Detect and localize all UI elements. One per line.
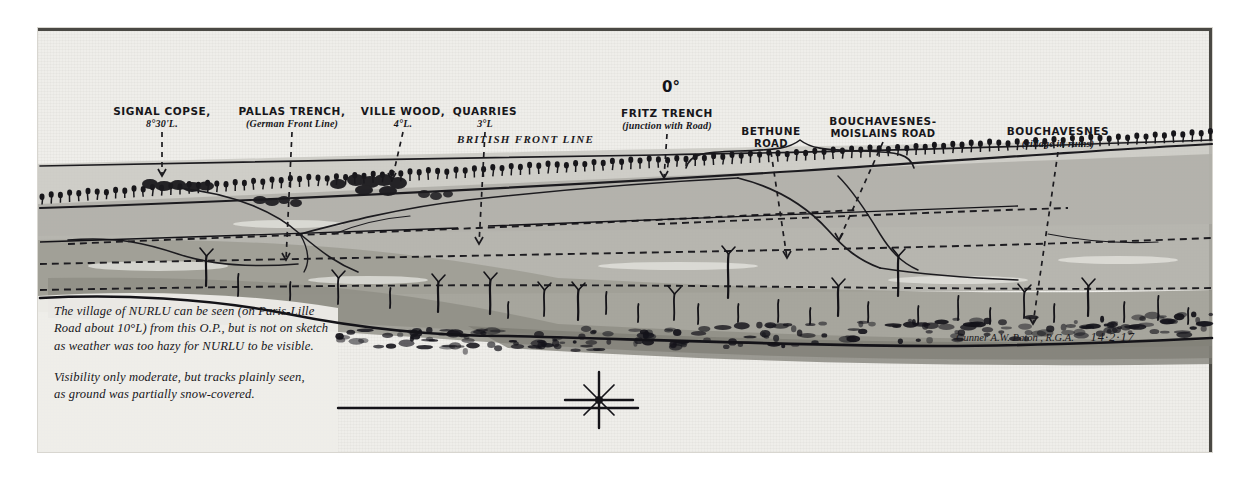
rubble-clump (358, 338, 368, 343)
rubble-clump (1018, 323, 1032, 329)
rubble-clump (590, 330, 596, 334)
rubble-clump (898, 339, 903, 345)
shattered-tree-stump (738, 304, 739, 322)
rubble-clump (511, 344, 524, 349)
rubble-clump (743, 336, 756, 339)
visibility-note: Visibility only moderate, but tracks pla… (54, 369, 305, 404)
rubble-clump (421, 339, 436, 342)
rubble-clump (952, 318, 959, 321)
rubble-clump (723, 345, 730, 350)
rubble-clump (791, 325, 796, 332)
label-signal-copse-line1: SIGNAL COPSE, (113, 106, 211, 118)
rubble-clump (773, 335, 779, 342)
rubble-clump (573, 340, 577, 344)
rubble-clump (581, 326, 591, 332)
shattered-tree-stump (638, 304, 639, 322)
rubble-clump (848, 328, 861, 331)
label-quarries-line2: 3°L (453, 118, 517, 129)
shattered-tree-stump (1124, 302, 1125, 322)
rubble-clump (924, 322, 939, 329)
rubble-clump (664, 329, 673, 333)
rubble-clump (1131, 315, 1145, 321)
rubble-clump (528, 345, 542, 348)
rubble-clump (1191, 312, 1196, 318)
rubble-clump (463, 348, 468, 355)
label-bethune-road-line2: ROAD (741, 138, 800, 149)
nurlu-note-line-1: The village of NURLU can be seen (on Par… (54, 303, 328, 320)
rubble-clump (552, 340, 559, 348)
label-fritz-trench-line2: (junction with Road) (621, 120, 713, 131)
shattered-tree-stump (290, 282, 291, 300)
rubble-clump (382, 333, 393, 338)
rubble-clump (734, 322, 750, 329)
rubble-clump (1174, 330, 1191, 334)
skyline-tree-mark (1208, 128, 1213, 141)
label-bouchavesnes-moislains-road: BOUCHAVESNES-MOISLAINS ROAD (829, 116, 936, 139)
rubble-clump (916, 339, 921, 343)
rubble-clump (586, 348, 601, 351)
rubble-clump (799, 333, 815, 338)
rubble-clump (1190, 326, 1197, 330)
nurlu-note-line-2: Road about 10°L) from this O.P., but is … (54, 320, 328, 337)
label-signal-copse-line2: 8°30'L. (113, 118, 211, 129)
rubble-clump (1124, 325, 1140, 329)
label-pallas-trench-line1: PALLAS TRENCH, (239, 106, 346, 118)
shattered-tree-stump (606, 292, 607, 314)
shattered-tree-stump (958, 296, 959, 320)
label-signal-copse: SIGNAL COPSE,8°30'L. (113, 106, 211, 129)
rubble-clump (885, 323, 902, 327)
rubble-clump (1111, 321, 1118, 325)
rubble-clump (1001, 327, 1012, 330)
label-pallas-trench: PALLAS TRENCH,(German Front Line) (239, 106, 346, 129)
label-bethune-road-line1: BETHUNE (741, 126, 800, 138)
rubble-clump (416, 345, 433, 349)
signature-block: Gunner A.W. Paton , R.G.A. 14·2·17 (956, 330, 1135, 345)
shattered-tree-stump (918, 306, 919, 324)
rubble-clump (1104, 323, 1109, 326)
rubble-clump (1100, 316, 1104, 323)
rubble-clump (640, 330, 649, 335)
rubble-clump (628, 329, 642, 332)
signature-author: Gunner A.W. Paton , R.G.A. (956, 332, 1074, 343)
nurlu-note-line-3: as weather was too hazy for NURLU to be … (54, 338, 328, 355)
rubble-clump (357, 329, 374, 333)
rubble-clump (466, 343, 480, 349)
rubble-clump (373, 345, 384, 349)
british-front-line-label: BRITISH FRONT LINE (457, 133, 594, 145)
rubble-clump (714, 325, 732, 330)
rubble-clump (783, 323, 792, 326)
rubble-clump (765, 322, 777, 328)
rubble-clump (760, 330, 771, 337)
rubble-clump (1074, 320, 1078, 324)
rubble-clump (397, 332, 403, 337)
signature-date: 14·2·17 (1090, 330, 1135, 344)
rubble-clump (1066, 324, 1076, 328)
label-bouchavesnes-village: BOUCHAVESNES(village in ruins) (1007, 126, 1109, 149)
label-bethune-road: BETHUNEROAD (741, 126, 800, 149)
rubble-clump (1201, 326, 1207, 332)
rubble-clump (336, 337, 345, 342)
label-bouchavesnes-village-line2: (village in ruins) (1007, 138, 1109, 149)
rubble-clump (347, 330, 356, 335)
rubble-clump (1196, 321, 1213, 326)
rubble-clump (1174, 313, 1185, 320)
shattered-tree-stump (1054, 304, 1055, 322)
rubble-clump (1138, 322, 1154, 327)
rubble-clump (494, 345, 502, 351)
rubble-clump (1209, 313, 1213, 317)
rubble-clump (487, 341, 495, 348)
visibility-note-line-1: Visibility only moderate, but tracks pla… (54, 369, 305, 386)
shattered-tree-stump (868, 302, 869, 322)
rubble-clump (938, 324, 954, 330)
rubble-clump (805, 323, 815, 326)
rubble-clump (926, 330, 933, 334)
label-ville-wood: VILLE WOOD,4°L. (361, 106, 445, 129)
rubble-clump (559, 342, 565, 345)
label-fritz-trench-line1: FRITZ TRENCH (621, 108, 713, 120)
rubble-clump (756, 322, 762, 329)
shattered-tree-stump (698, 304, 699, 324)
starburst-compass-icon (565, 372, 633, 428)
rubble-clump (858, 321, 863, 328)
label-ville-wood-line2: 4°L. (361, 118, 445, 129)
label-bouchavesnes-moislains-road-line2: MOISLAINS ROAD (829, 128, 936, 139)
